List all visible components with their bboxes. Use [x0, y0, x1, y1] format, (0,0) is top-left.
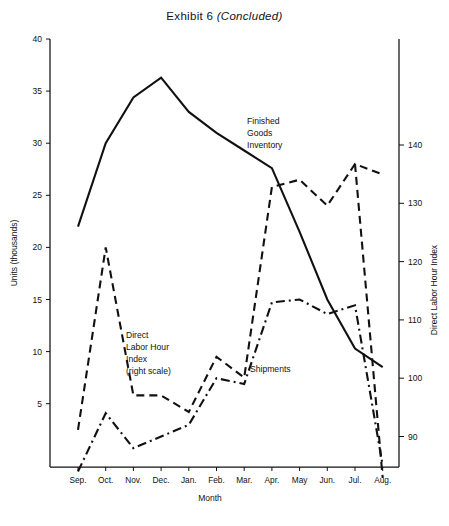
- axes-layer: [46, 39, 404, 471]
- x-tick-label: Mar.: [236, 475, 252, 485]
- right-tick-label: 90: [408, 432, 418, 442]
- left-tick-label: 10: [33, 347, 43, 357]
- left-tick-label: 30: [33, 138, 43, 148]
- right-tick-label: 100: [408, 373, 422, 383]
- annotation-direct-labor-hour-index: Labor Hour: [126, 342, 169, 352]
- left-tick-label: 25: [33, 190, 43, 200]
- x-tick-label: Sep.: [69, 475, 86, 485]
- labels-layer: 51015202530354090100110120130140Sep.Oct.…: [9, 34, 439, 503]
- annotation-direct-labor-hour-index: Direct: [126, 330, 149, 340]
- x-axis-title: Month: [198, 493, 222, 503]
- x-tick-label: Nov.: [125, 475, 141, 485]
- left-tick-label: 35: [33, 86, 43, 96]
- x-tick-label: Jan.: [181, 475, 197, 485]
- x-tick-label: Dec.: [153, 475, 170, 485]
- x-tick-label: Apr.: [265, 475, 280, 485]
- chart-page: Exhibit 6 (Concluded) 510152025303540901…: [0, 0, 449, 526]
- right-tick-label: 130: [408, 198, 422, 208]
- series-line-dashed-tail: [355, 164, 383, 478]
- chart-canvas: 51015202530354090100110120130140Sep.Oct.…: [0, 0, 449, 526]
- series-layer: [78, 78, 383, 478]
- left-tick-label: 5: [37, 399, 42, 409]
- series-line-dashed: [78, 164, 383, 430]
- right-axis-title: Direct Labor Hour Index: [429, 244, 439, 335]
- annotation-finished-goods-inventory: Goods: [247, 128, 272, 138]
- x-tick-label: Feb.: [208, 475, 225, 485]
- left-axis-title: Units (thousands): [9, 220, 19, 287]
- x-tick-label: May: [292, 475, 309, 485]
- annotation-shipments: Shipments: [250, 364, 291, 374]
- left-tick-label: 15: [33, 295, 43, 305]
- x-tick-label: Jul.: [349, 475, 362, 485]
- annotation-direct-labor-hour-index: Index: [126, 354, 148, 364]
- annotation-direct-labor-hour-index: (right scale): [126, 366, 171, 376]
- x-tick-label: Jun.: [319, 475, 335, 485]
- left-tick-label: 20: [33, 242, 43, 252]
- series-line-solid: [78, 78, 383, 368]
- x-tick-label: Aug.: [374, 475, 391, 485]
- annotation-finished-goods-inventory: Inventory: [247, 140, 283, 150]
- annotation-finished-goods-inventory: Finished: [247, 116, 280, 126]
- right-tick-label: 120: [408, 257, 422, 267]
- left-tick-label: 40: [33, 34, 43, 44]
- right-tick-label: 110: [408, 315, 422, 325]
- series-line-dash-dot: [78, 300, 383, 472]
- x-tick-label: Oct.: [98, 475, 113, 485]
- right-tick-label: 140: [408, 140, 422, 150]
